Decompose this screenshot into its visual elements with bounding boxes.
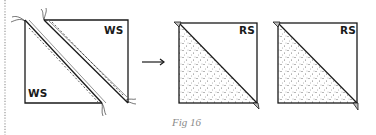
label-wrong-side-bottom: WS <box>28 88 48 99</box>
figure-caption: Fig 16 <box>172 116 201 128</box>
diagram-canvas <box>0 0 376 135</box>
label-wrong-side-top: WS <box>104 25 124 36</box>
right-arrow-icon <box>142 59 164 65</box>
label-right-side-2: RS <box>340 25 356 36</box>
label-right-side-1: RS <box>239 25 255 36</box>
figure-16: WS WS RS RS Fig 16 <box>0 0 376 135</box>
